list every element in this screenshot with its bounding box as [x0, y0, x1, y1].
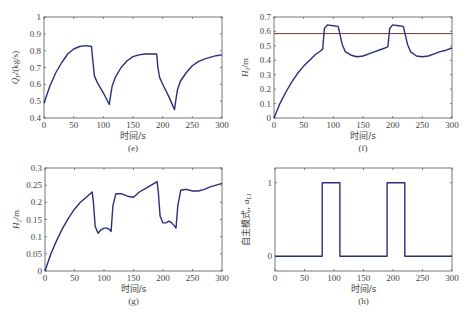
panel-sublabel: (h) — [358, 296, 369, 306]
x-tick-label: 300 — [445, 273, 459, 283]
x-tick-label: 50 — [300, 273, 310, 283]
x-tick-label: 0 — [273, 273, 278, 283]
x-tick-label: 250 — [416, 273, 430, 283]
y-tick-label: 1 — [268, 178, 273, 188]
x-tick-label: 150 — [357, 273, 371, 283]
x-tick-label: 100 — [327, 273, 341, 283]
y-tick-label: 0 — [268, 251, 273, 261]
x-tick-label: 200 — [386, 273, 400, 283]
x-axis-label: 时间/s — [351, 283, 377, 294]
chart-panel-h: 05010015020025030001时间/s(h)自主模式, aL1 — [0, 0, 465, 319]
chart-h-svg: 05010015020025030001时间/s(h)自主模式, aL1 — [0, 0, 465, 319]
plot-frame — [275, 168, 452, 271]
series-line-a_L1 — [275, 183, 452, 257]
y-axis-label: 自主模式, aL1 — [240, 193, 252, 246]
